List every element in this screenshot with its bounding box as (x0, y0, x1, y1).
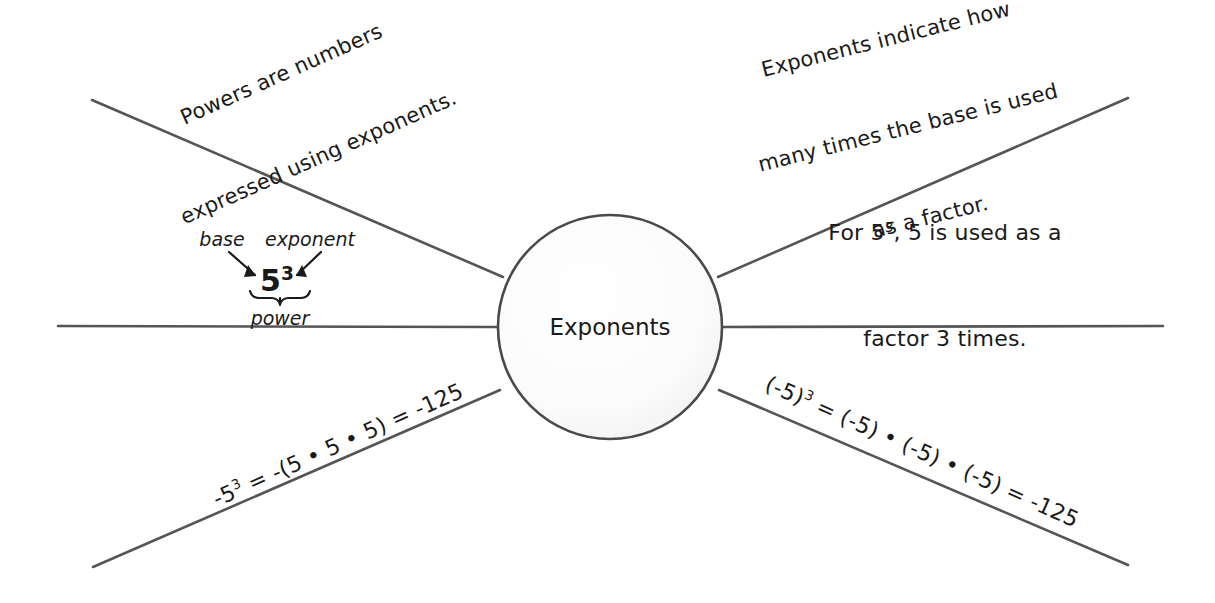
expression-5-cubed: 53 (260, 263, 294, 298)
base-annotation-label: base (199, 228, 244, 250)
center-node-label: Exponents (549, 314, 670, 340)
diagram-canvas: Exponents Powers are numbers expressed u… (0, 0, 1215, 603)
branch-line-1: For 53, 5 is used as a (780, 216, 1110, 251)
exponent-annotation-label: exponent (265, 228, 355, 250)
power-annotation-label: power (251, 307, 310, 329)
